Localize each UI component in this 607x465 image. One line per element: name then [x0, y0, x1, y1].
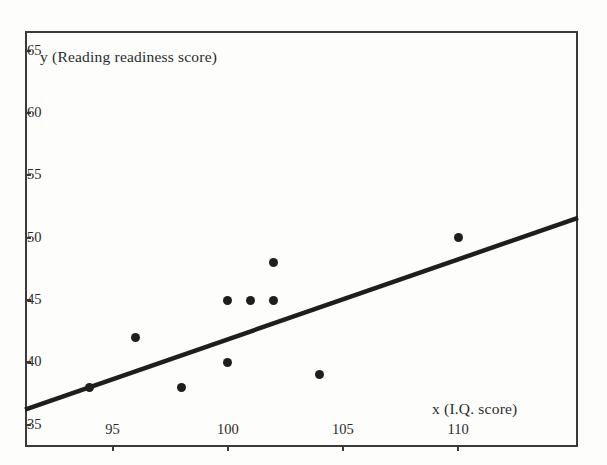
data-point	[223, 296, 232, 305]
x-tick-label: 100	[217, 421, 239, 438]
y-tick-label: 55	[27, 167, 42, 184]
y-tick-label: 60	[27, 104, 42, 121]
regression-line-layer	[0, 0, 607, 465]
data-point	[454, 233, 463, 242]
y-tick-label: 45	[27, 291, 42, 308]
x-tick-mark	[457, 445, 459, 451]
data-point	[269, 296, 278, 305]
data-point	[177, 383, 186, 392]
y-tick-label: 35	[27, 416, 42, 433]
x-tick-label: 105	[332, 421, 354, 438]
y-tick-label: 40	[27, 353, 42, 370]
regression-line	[25, 218, 578, 410]
x-tick-label: 110	[448, 421, 469, 438]
y-axis-title: y (Reading readiness score)	[40, 48, 217, 66]
data-point	[131, 333, 140, 342]
x-tick-mark	[342, 445, 344, 451]
data-point	[85, 383, 94, 392]
scatter-plot-figure: 35404550556065 95100105110 y (Reading re…	[0, 0, 607, 465]
x-tick-mark	[112, 445, 114, 451]
data-point	[246, 296, 255, 305]
y-tick-label: 50	[27, 229, 42, 246]
x-tick-label: 95	[105, 421, 120, 438]
plot-area: 35404550556065 95100105110 y (Reading re…	[0, 0, 607, 465]
data-point	[223, 358, 232, 367]
x-axis-title: x (I.Q. score)	[432, 400, 517, 418]
x-tick-mark	[227, 445, 229, 451]
